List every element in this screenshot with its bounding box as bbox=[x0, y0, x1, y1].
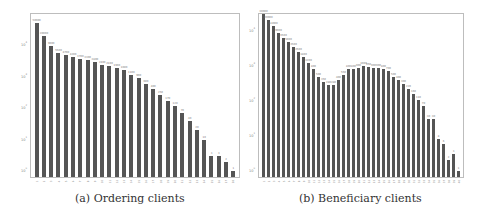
y-tick-label: 100 bbox=[249, 167, 255, 172]
bar bbox=[188, 121, 192, 177]
bar bbox=[417, 100, 420, 177]
x-tick-label: 8 bbox=[297, 181, 300, 183]
y-tick-label: 104 bbox=[21, 41, 27, 46]
bar bbox=[78, 59, 82, 177]
bar bbox=[107, 66, 111, 177]
x-tick-label: 21 bbox=[181, 180, 184, 183]
bar bbox=[151, 89, 155, 177]
bar bbox=[307, 63, 310, 177]
bar-value-label: 2800 bbox=[92, 58, 99, 61]
bar-value-label: 250 bbox=[158, 91, 163, 94]
bar-value-label: 3300 bbox=[84, 56, 91, 59]
x-tick-label: 9 bbox=[93, 181, 96, 183]
beneficiary-clients-plot: 3000012000021400039000465005500063500725… bbox=[258, 13, 464, 178]
x-tick-label: 34 bbox=[427, 180, 430, 183]
bar bbox=[277, 33, 280, 177]
panel-ordering-clients: 5000012000029000355004470054200637007330… bbox=[0, 0, 240, 216]
bar-value-label: 30 bbox=[427, 115, 430, 118]
bar-value-label: 9000 bbox=[275, 29, 282, 32]
x-tick-label: 11 bbox=[312, 180, 315, 183]
x-tick-label: 13 bbox=[123, 180, 126, 183]
x-tick-label: 23 bbox=[195, 180, 198, 183]
bar-value-label: 800 bbox=[311, 65, 316, 68]
bar-value-label: 20000 bbox=[264, 16, 272, 19]
bar-value-label: 120 bbox=[173, 102, 178, 105]
x-tick-label: 21 bbox=[362, 180, 365, 183]
bar bbox=[35, 23, 39, 177]
bar bbox=[442, 144, 445, 177]
bar-value-label: 1900 bbox=[113, 64, 120, 67]
bar bbox=[317, 77, 320, 177]
x-tick-label: 1 bbox=[262, 181, 265, 183]
bar-value-label: 700 bbox=[386, 67, 391, 70]
bar bbox=[292, 47, 295, 177]
bar-value-label: 400 bbox=[396, 76, 401, 79]
x-tick-label: 3 bbox=[50, 181, 53, 183]
x-tick-label: 27 bbox=[225, 180, 228, 183]
bar bbox=[382, 69, 385, 177]
x-tick-label: 19 bbox=[352, 180, 355, 183]
x-tick-label: 26 bbox=[217, 180, 220, 183]
bar bbox=[122, 70, 126, 177]
bar bbox=[412, 94, 415, 177]
bar-value-label: 3500 bbox=[290, 43, 297, 46]
bar bbox=[166, 101, 170, 177]
x-tick-label: 2 bbox=[267, 181, 270, 183]
bar-value-label: 70 bbox=[422, 102, 425, 105]
bar-value-label: 10 bbox=[203, 136, 206, 139]
bar-value-label: 1800 bbox=[300, 53, 307, 56]
bar bbox=[231, 171, 235, 177]
bar bbox=[302, 57, 305, 177]
x-tick-label: 4 bbox=[277, 181, 280, 183]
x-tick-label: 24 bbox=[377, 180, 380, 183]
bar bbox=[362, 66, 365, 177]
x-tick-label: 9 bbox=[302, 181, 305, 183]
bar-value-label: 5000 bbox=[285, 38, 292, 41]
bar-value-label: 1 bbox=[233, 167, 235, 170]
x-tick-label: 2 bbox=[42, 181, 45, 183]
x-tick-label: 20 bbox=[174, 180, 177, 183]
bar-value-label: 40 bbox=[188, 117, 191, 120]
bar bbox=[322, 82, 325, 177]
x-tick-label: 11 bbox=[108, 180, 111, 183]
bar-value-label: 500 bbox=[316, 73, 321, 76]
bar bbox=[144, 84, 148, 178]
bar bbox=[387, 71, 390, 177]
bar bbox=[158, 95, 162, 177]
bar-value-label: 300 bbox=[401, 80, 406, 83]
x-tick-label: 25 bbox=[210, 180, 213, 183]
x-tick-label: 20 bbox=[357, 180, 360, 183]
x-tick-label: 12 bbox=[317, 180, 320, 183]
bar-value-label: 30000 bbox=[259, 10, 267, 13]
bar-value-label: 3 bbox=[453, 150, 455, 153]
bar bbox=[129, 75, 133, 177]
x-tick-label: 26 bbox=[387, 180, 390, 183]
y-tick-label: 103 bbox=[21, 73, 27, 78]
bar bbox=[452, 154, 455, 177]
bar-value-label: 900 bbox=[136, 74, 141, 77]
x-tick-label: 5 bbox=[282, 181, 285, 183]
x-tick-label: 5 bbox=[64, 181, 67, 183]
bar bbox=[195, 130, 199, 177]
x-tick-label: 25 bbox=[382, 180, 385, 183]
x-tick-label: 33 bbox=[422, 180, 425, 183]
x-tick-label: 22 bbox=[188, 180, 191, 183]
x-tick-label: 3 bbox=[272, 181, 275, 183]
bar-value-label: 3 bbox=[218, 152, 220, 155]
bar-value-label: 600 bbox=[143, 80, 148, 83]
bar-value-label: 1600 bbox=[121, 66, 128, 69]
y-tick-label: 101 bbox=[21, 136, 27, 141]
bar-value-label: 1200 bbox=[305, 59, 312, 62]
x-tick-label: 28 bbox=[232, 180, 235, 183]
bar bbox=[437, 139, 440, 177]
x-tick-label: 10 bbox=[101, 180, 104, 183]
x-tick-label: 39 bbox=[452, 180, 455, 183]
x-tick-label: 27 bbox=[392, 180, 395, 183]
bar bbox=[64, 55, 68, 177]
bar bbox=[42, 36, 46, 177]
x-tick-label: 19 bbox=[166, 180, 169, 183]
bar bbox=[332, 85, 335, 177]
bar-value-label: 1100 bbox=[128, 71, 135, 74]
bar-value-label: 20 bbox=[195, 126, 198, 129]
bar-value-label: 550 bbox=[341, 71, 346, 74]
